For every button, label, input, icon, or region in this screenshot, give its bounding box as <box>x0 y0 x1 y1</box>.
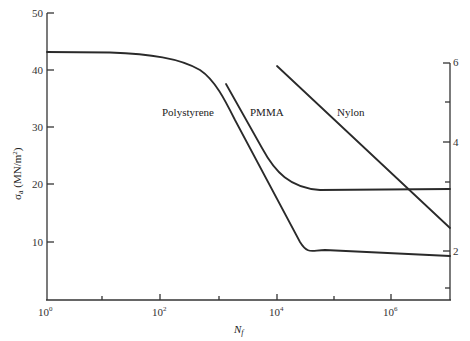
polystyrene-curve <box>47 52 450 256</box>
y-tick-30: 30 <box>32 121 44 133</box>
y-tick-20: 20 <box>32 178 44 190</box>
pmma-curve <box>226 84 450 190</box>
x-axis-title: Nf <box>233 323 245 337</box>
y-tick-50: 50 <box>32 7 44 19</box>
polystyrene-label: Polystyrene <box>162 106 214 118</box>
nylon-curve <box>277 66 450 228</box>
x-tick-10e4: 104 <box>269 305 284 318</box>
right-tick-4: 4 <box>453 136 459 148</box>
x-tick-10e6: 106 <box>383 305 398 318</box>
right-tick-2: 2 <box>453 245 459 257</box>
y-axis-title: σa (MN/m2) <box>11 147 25 200</box>
x-tick-10e0: 100 <box>38 305 53 318</box>
y-tick-40: 40 <box>32 64 44 76</box>
x-tick-10e2: 102 <box>152 305 167 318</box>
fatigue-chart: 50 40 30 20 10 100 102 104 106 6 4 2 Pol… <box>0 0 470 341</box>
right-tick-6: 6 <box>453 56 459 68</box>
y-tick-10: 10 <box>32 236 44 248</box>
pmma-label: PMMA <box>250 106 284 118</box>
nylon-label: Nylon <box>337 106 365 118</box>
